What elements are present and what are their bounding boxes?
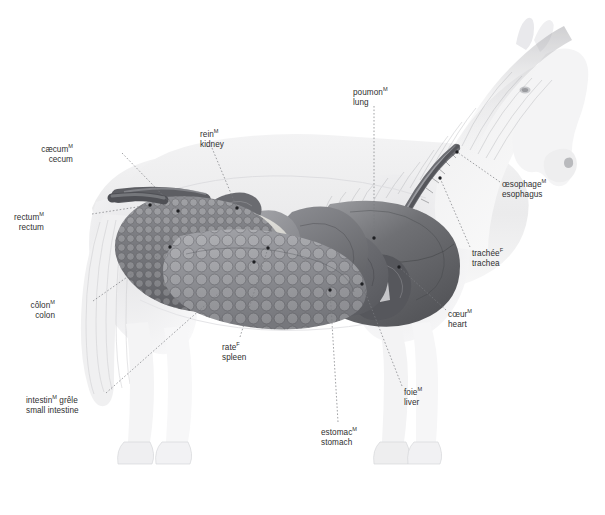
label-kidney: reinMkidney bbox=[200, 126, 224, 151]
gender-marker: M bbox=[39, 211, 44, 217]
label-heart: cœurMheart bbox=[448, 306, 472, 331]
anchor-dot-lung bbox=[372, 236, 375, 239]
label-french: intestinM grêle bbox=[26, 392, 79, 406]
label-french: cæcumM bbox=[41, 141, 73, 155]
anchor-dot-heart bbox=[397, 265, 400, 268]
anchor-dot-rectum bbox=[148, 203, 151, 206]
gender-marker: M bbox=[417, 386, 422, 392]
gender-marker: M bbox=[52, 394, 57, 400]
label-english: trachea bbox=[472, 259, 503, 269]
anchor-dot-esophagus bbox=[455, 150, 458, 153]
gender-marker: M bbox=[542, 178, 547, 184]
gender-marker: M bbox=[467, 308, 472, 314]
label-stomach: estomacMstomach bbox=[321, 424, 357, 449]
label-english: cecum bbox=[41, 155, 73, 165]
label-french: estomacM bbox=[321, 424, 357, 438]
anchor-dot-liver bbox=[360, 282, 363, 285]
label-english: lung bbox=[353, 98, 388, 108]
anchor-dot-colon bbox=[168, 245, 171, 248]
label-lung: poumonMlung bbox=[353, 84, 388, 109]
label-spleen: rateFspleen bbox=[222, 339, 246, 364]
gender-marker: M bbox=[352, 426, 357, 432]
label-small-intestine: intestinM grêlesmall intestine bbox=[26, 392, 79, 417]
anchor-dot-cecum bbox=[176, 209, 179, 212]
gender-marker: M bbox=[214, 128, 219, 134]
anatomy-figure: cæcumMcecumrectumMrectumcôlonMcolonintes… bbox=[0, 0, 605, 515]
label-english: stomach bbox=[321, 438, 357, 448]
gender-marker: M bbox=[50, 299, 55, 305]
gender-marker: F bbox=[500, 247, 503, 253]
label-english: colon bbox=[31, 311, 56, 321]
label-english: kidney bbox=[200, 140, 224, 150]
label-french: poumonM bbox=[353, 84, 388, 98]
label-english: rectum bbox=[14, 223, 44, 233]
gender-marker: F bbox=[236, 341, 239, 347]
anchor-dot-small-intestine bbox=[252, 260, 255, 263]
label-english: esophagus bbox=[502, 190, 546, 200]
anchor-dot-trachea bbox=[438, 176, 441, 179]
horse-anatomy-illustration bbox=[0, 0, 605, 515]
label-english: heart bbox=[448, 320, 472, 330]
label-french: cœurM bbox=[448, 306, 472, 320]
anchor-dot-spleen bbox=[266, 246, 269, 249]
gender-marker: M bbox=[383, 86, 388, 92]
label-english: small intestine bbox=[26, 406, 79, 416]
label-french: reinM bbox=[200, 126, 224, 140]
label-french: œsophageM bbox=[502, 176, 546, 190]
label-french: trachéeF bbox=[472, 245, 503, 259]
label-french: côlonM bbox=[31, 297, 56, 311]
label-esophagus: œsophageMesophagus bbox=[502, 176, 546, 201]
anchor-dot-stomach bbox=[328, 288, 331, 291]
label-rectum: rectumMrectum bbox=[14, 209, 44, 234]
label-trachea: trachéeFtrachea bbox=[472, 245, 503, 270]
label-cecum: cæcumMcecum bbox=[41, 141, 73, 166]
label-english: liver bbox=[404, 398, 422, 408]
anchor-dot-kidney bbox=[235, 206, 238, 209]
label-colon: côlonMcolon bbox=[31, 297, 56, 322]
gender-marker: M bbox=[68, 143, 73, 149]
label-french: rateF bbox=[222, 339, 246, 353]
label-french: foieM bbox=[404, 384, 422, 398]
label-english: spleen bbox=[222, 353, 246, 363]
label-french: rectumM bbox=[14, 209, 44, 223]
rectum-organ bbox=[112, 194, 164, 200]
label-liver: foieMliver bbox=[404, 384, 422, 409]
